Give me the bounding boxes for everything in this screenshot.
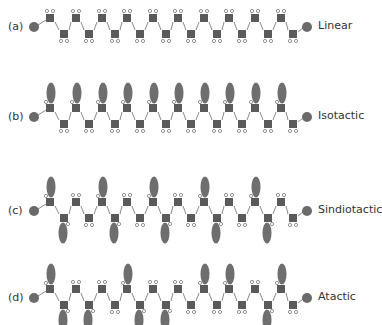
hydrogen-atom <box>288 129 291 132</box>
backbone-carbon-top <box>277 198 285 206</box>
hydrogen-atom <box>44 281 47 284</box>
hydrogen-atom <box>122 9 125 12</box>
backbone-carbon-bottom <box>85 214 93 222</box>
chain-row-b <box>29 83 312 133</box>
hydrogen-atom <box>243 129 246 132</box>
hydrogen-atom <box>77 280 80 283</box>
bond <box>132 206 135 214</box>
hydrogen-atom <box>90 39 93 42</box>
hydrogen-atom <box>116 39 119 42</box>
backbone-carbon-top <box>46 198 54 206</box>
chain-row-d <box>29 264 312 325</box>
backbone-carbon-top <box>200 198 208 206</box>
hydrogen-atom <box>135 39 138 42</box>
hydrogen-atom <box>161 129 164 132</box>
hydrogen-atom <box>294 129 297 132</box>
bond <box>132 22 135 30</box>
hydrogen-atom <box>256 9 259 12</box>
backbone-carbon-bottom <box>238 214 246 222</box>
bond <box>38 20 46 25</box>
backbone-carbon-bottom <box>187 30 195 38</box>
hydrogen-atom <box>154 9 157 12</box>
backbone-carbon-bottom <box>60 30 68 38</box>
backbone-carbon-top <box>225 285 233 293</box>
hydrogen-atom <box>224 193 227 196</box>
bond <box>120 112 122 120</box>
hydrogen-atom <box>173 280 176 283</box>
hydrogen-atom <box>51 9 54 12</box>
backbone-carbon-top <box>46 14 54 22</box>
bond <box>222 206 224 214</box>
end-end-group <box>302 112 312 122</box>
bond <box>145 22 148 30</box>
bond <box>247 293 250 301</box>
hydrogen-atom <box>179 9 182 12</box>
side-group-down <box>263 223 272 244</box>
bond <box>273 22 276 30</box>
backbone-carbon-bottom <box>264 301 272 309</box>
bond <box>145 293 148 301</box>
bond <box>55 293 59 301</box>
hydrogen-atom <box>212 39 215 42</box>
side-group-down <box>110 223 119 244</box>
hydrogen-atom <box>71 193 74 196</box>
bond <box>81 293 84 301</box>
backbone-carbon-bottom <box>289 214 297 222</box>
backbone-carbon-top <box>174 285 182 293</box>
side-group-up <box>124 83 133 104</box>
side-group-up <box>150 83 159 104</box>
bond <box>234 206 237 214</box>
bond <box>196 206 199 214</box>
row-letter-a: (a) <box>8 20 23 33</box>
hydrogen-atom <box>59 39 62 42</box>
bond <box>196 293 199 301</box>
bond <box>196 112 199 120</box>
backbone-carbon-top <box>72 285 80 293</box>
row-letter-d: (d) <box>8 291 24 304</box>
bond <box>286 293 288 301</box>
hydrogen-atom <box>186 129 189 132</box>
hydrogen-atom <box>168 309 171 312</box>
backbone-carbon-top <box>46 104 54 112</box>
backbone-carbon-bottom <box>238 301 246 309</box>
bond <box>145 206 148 214</box>
hydrogen-atom <box>288 223 291 226</box>
hydrogen-atom <box>141 223 144 226</box>
tacticity-label-a: Linear <box>318 19 352 32</box>
backbone-carbon-top <box>46 285 54 293</box>
hydrogen-atom <box>122 193 125 196</box>
hydrogen-atom <box>270 309 273 312</box>
start-end-group <box>29 293 39 303</box>
hydrogen-atom <box>237 129 240 132</box>
hydrogen-atom <box>263 39 266 42</box>
hydrogen-atom <box>147 100 150 103</box>
backbone-carbon-bottom <box>111 214 119 222</box>
bond <box>171 206 173 214</box>
hydrogen-atom <box>90 129 93 132</box>
end-end-group <box>302 206 312 216</box>
backbone-carbon-top <box>72 104 80 112</box>
hydrogen-atom <box>186 39 189 42</box>
hydrogen-atom <box>167 39 170 42</box>
hydrogen-atom <box>270 222 273 225</box>
hydrogen-atom <box>282 193 285 196</box>
side-group-up <box>47 177 56 198</box>
bond <box>81 112 84 120</box>
hydrogen-atom <box>128 193 131 196</box>
hydrogen-atom <box>192 39 195 42</box>
hydrogen-atom <box>66 309 69 312</box>
hydrogen-atom <box>294 310 297 313</box>
bond <box>145 112 148 120</box>
backbone-carbon-bottom <box>111 120 119 128</box>
hydrogen-atom <box>121 100 124 103</box>
backbone-carbon-bottom <box>213 301 221 309</box>
backbone-carbon-bottom <box>289 301 297 309</box>
bond <box>286 112 288 120</box>
side-group-up <box>99 83 108 104</box>
backbone-carbon-top <box>174 198 182 206</box>
bond <box>222 293 224 301</box>
bond <box>158 293 161 301</box>
backbone-carbon-bottom <box>85 30 93 38</box>
hydrogen-atom <box>167 129 170 132</box>
start-end-group <box>29 22 39 32</box>
